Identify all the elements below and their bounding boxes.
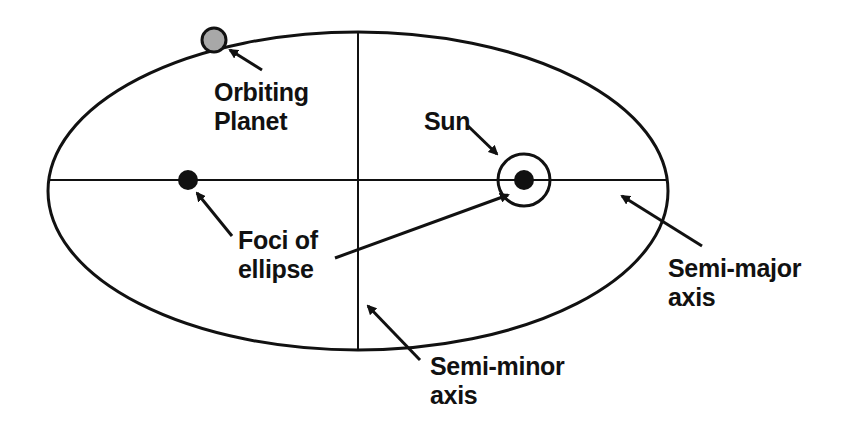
semi-minor-label-line2: axis: [430, 381, 565, 410]
planet-icon: [202, 28, 226, 52]
semi-major-label: Semi-major axis: [668, 254, 801, 312]
focus-to-sun-arrow: [335, 195, 508, 258]
foci-label: Foci of ellipse: [238, 226, 318, 284]
semi-major-arrow: [622, 196, 702, 246]
foci-label-line1: Foci of: [238, 226, 318, 255]
semi-minor-label-line1: Semi-minor: [430, 352, 565, 381]
foci-label-line2: ellipse: [238, 255, 318, 284]
planet-arrow: [230, 50, 262, 70]
focus-arrow: [197, 193, 232, 236]
sun-label: Sun: [424, 107, 470, 136]
planet-label: Orbiting Planet: [214, 78, 309, 136]
planet-label-line1: Orbiting: [214, 78, 309, 107]
sun-arrow: [468, 126, 497, 154]
planet-label-line2: Planet: [214, 107, 309, 136]
sun-dot-icon: [514, 170, 534, 190]
semi-minor-arrow: [368, 306, 420, 360]
focus-dot-icon: [178, 170, 198, 190]
semi-minor-label: Semi-minor axis: [430, 352, 565, 410]
semi-major-label-line1: Semi-major: [668, 254, 801, 283]
sun-label-line1: Sun: [424, 107, 470, 136]
semi-major-label-line2: axis: [668, 283, 801, 312]
